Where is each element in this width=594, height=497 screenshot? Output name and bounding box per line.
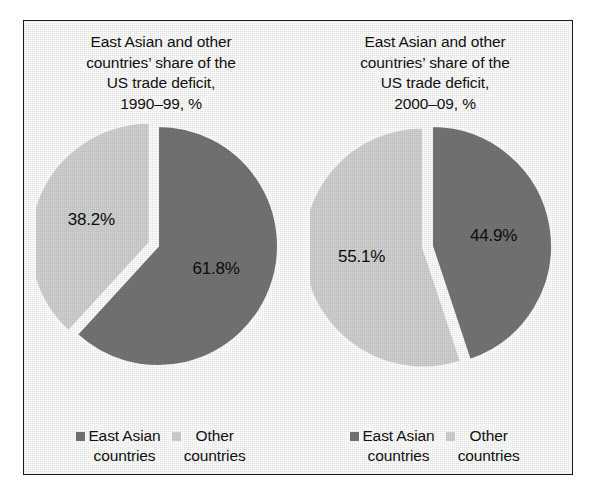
figure-frame: East Asian and other countries’ share of…: [23, 20, 573, 475]
legend-item-east-asian[interactable]: East Asian countries: [350, 426, 434, 466]
legend-item-other[interactable]: Other countries: [446, 426, 520, 466]
slice-label-other-1990-99: 38.2%: [68, 210, 115, 230]
chart-title-2000-09: East Asian and other countries’ share of…: [323, 32, 547, 114]
chart-title-1990-99: East Asian and other countries’ share of…: [49, 32, 273, 114]
legend-swatch-east-asian-icon: [76, 432, 85, 441]
slice-label-other-2000-09: 55.1%: [338, 247, 385, 267]
legend-swatch-other-icon: [172, 432, 181, 441]
slice-label-east-asian-2000-09: 44.9%: [470, 226, 517, 246]
legend-label-east-asian: East Asian countries: [88, 426, 160, 466]
panel-container: East Asian and other countries’ share of…: [24, 21, 572, 474]
legend-2000-09: East Asian countries Other countries: [298, 426, 572, 466]
legend-label-other: Other countries: [184, 426, 246, 466]
pie-svg-2000-09: [310, 120, 560, 372]
legend-item-east-asian[interactable]: East Asian countries: [76, 426, 160, 466]
pie-chart-2000-09[interactable]: 44.9% 55.1%: [310, 120, 560, 372]
legend-label-other: Other countries: [458, 426, 520, 466]
legend-1990-99: East Asian countries Other countries: [24, 426, 298, 466]
legend-swatch-other-icon: [446, 432, 455, 441]
chart-panel-1990-99: East Asian and other countries’ share of…: [24, 21, 298, 474]
chart-panel-2000-09: East Asian and other countries’ share of…: [298, 21, 572, 474]
legend-item-other[interactable]: Other countries: [172, 426, 246, 466]
legend-label-east-asian: East Asian countries: [362, 426, 434, 466]
pie-svg-1990-99: [36, 120, 286, 372]
legend-swatch-east-asian-icon: [350, 432, 359, 441]
pie-chart-1990-99[interactable]: 61.8% 38.2%: [36, 120, 286, 372]
slice-label-east-asian-1990-99: 61.8%: [193, 259, 240, 279]
